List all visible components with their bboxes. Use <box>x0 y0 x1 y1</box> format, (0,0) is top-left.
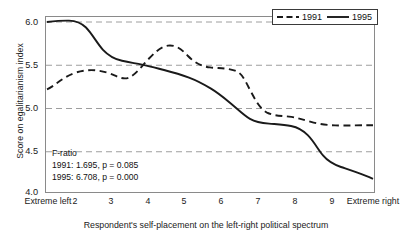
f-ratio-line-1995: 1995: 6.708, p = 0.000 <box>52 172 138 184</box>
y-tick-label-5-5: 5.5 <box>4 60 38 70</box>
x-tick-label-2: 2 <box>65 196 85 206</box>
x-tick-label-6: 6 <box>211 196 231 206</box>
x-tick-label-extreme-right: Extreme right <box>336 196 410 206</box>
x-tick-label-7: 7 <box>248 196 268 206</box>
legend-dashed-line-icon <box>277 13 299 21</box>
x-tick-label-5: 5 <box>174 196 194 206</box>
legend-item-1991[interactable]: 1991 <box>277 12 322 22</box>
legend-solid-line-icon <box>327 13 349 21</box>
legend-label-1995: 1995 <box>352 12 372 22</box>
y-axis-title: Score on egalitarianism index <box>15 11 25 191</box>
y-tick-label-6-0: 6.0 <box>4 17 38 27</box>
f-ratio-annotation: F-ratio 1991: 1.695, p = 0.085 1995: 6.7… <box>52 148 138 184</box>
y-tick-label-5-0: 5.0 <box>4 103 38 113</box>
f-ratio-heading: F-ratio <box>52 148 138 160</box>
legend-label-1991: 1991 <box>302 12 322 22</box>
series-1991-dashed <box>47 45 373 125</box>
x-tick-label-8: 8 <box>285 196 305 206</box>
x-tick-label-3: 3 <box>101 196 121 206</box>
f-ratio-line-1991: 1991: 1.695, p = 0.085 <box>52 160 138 172</box>
gridlines <box>46 22 374 152</box>
y-tick-label-4-5: 4.5 <box>4 146 38 156</box>
chart-figure: Score on egalitarianism index 6.0 5.5 5.… <box>0 0 412 238</box>
legend-item-1995[interactable]: 1995 <box>327 12 372 22</box>
x-axis-title: Respondent's self-placement on the left-… <box>0 220 412 230</box>
x-tick-label-4: 4 <box>138 196 158 206</box>
chart-legend[interactable]: 1991 1995 <box>272 9 378 25</box>
